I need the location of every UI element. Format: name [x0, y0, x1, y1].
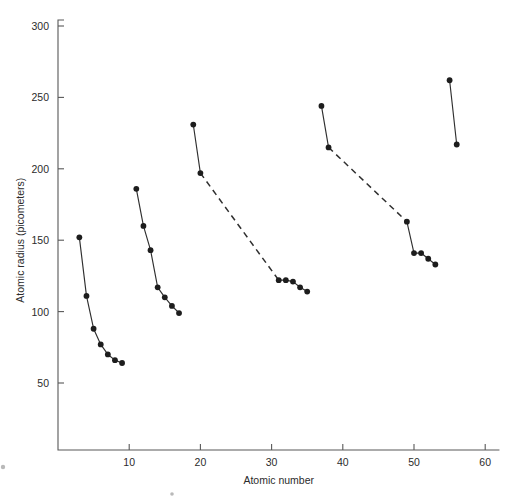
chart-plot-area [76, 77, 459, 366]
data-point [119, 360, 125, 366]
data-point [432, 262, 438, 268]
y-tick-label: 300 [31, 20, 49, 32]
data-point [105, 352, 111, 358]
data-point [290, 279, 296, 285]
scan-artifacts [1, 465, 174, 496]
data-point [418, 250, 424, 256]
x-tick-label: 20 [195, 456, 207, 468]
data-point [283, 277, 289, 283]
y-axis-title: Atomic radius (picometers) [14, 178, 26, 303]
data-point [98, 342, 104, 348]
y-tick-label: 150 [31, 234, 49, 246]
y-tick-label: 200 [31, 163, 49, 175]
data-point [454, 142, 460, 148]
axis-spine [58, 20, 499, 450]
series-line-period-5-alkali-alkaline [321, 106, 328, 147]
y-tick-label: 50 [37, 377, 49, 389]
data-point [198, 170, 204, 176]
data-point [169, 303, 175, 309]
data-point [276, 277, 282, 283]
x-tick-label: 60 [479, 456, 491, 468]
data-point [447, 77, 453, 83]
data-point [84, 293, 90, 299]
y-tick-label: 250 [31, 91, 49, 103]
data-point [91, 326, 97, 332]
series-line-period-4-transition-gap [200, 173, 278, 280]
data-point [148, 247, 154, 253]
series-line-period-4-alkali-alkaline [193, 125, 200, 174]
x-tick-label: 30 [266, 456, 278, 468]
data-point [141, 223, 147, 229]
data-point [76, 234, 82, 240]
atomic-radius-chart: 50100150200250300102030405060Atomic numb… [0, 0, 506, 501]
series-line-period-3 [136, 189, 179, 313]
series-line-period-5-transition-gap [329, 147, 407, 221]
data-point [112, 357, 118, 363]
data-point [155, 284, 161, 290]
data-point [162, 294, 168, 300]
data-point [411, 250, 417, 256]
series-line-period-6-alkali-alkaline [450, 80, 457, 144]
x-axis-title: Atomic number [243, 474, 314, 486]
x-tick-label: 50 [408, 456, 420, 468]
data-point [425, 256, 431, 262]
data-point [304, 289, 310, 295]
data-point [176, 310, 182, 316]
data-point [297, 284, 303, 290]
x-tick-label: 40 [337, 456, 349, 468]
data-point [404, 219, 410, 225]
data-point [319, 103, 325, 109]
x-tick-label: 10 [123, 456, 135, 468]
y-tick-label: 100 [31, 306, 49, 318]
series-line-period-5-post-transition [407, 222, 435, 265]
data-point [133, 186, 139, 192]
chart-axes [58, 20, 499, 450]
data-point [190, 122, 196, 128]
data-point [326, 144, 332, 150]
